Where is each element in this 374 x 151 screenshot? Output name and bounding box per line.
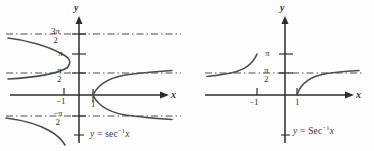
figure-container: y x 3π 2 π π 2 −π 2 −1 1 y = sec−1x [0,0,374,151]
y-tick-label-pi-over-2: π 2 [263,66,270,84]
y-tick-label-pi: π [265,49,270,58]
curve-upper-left-vertex [62,54,70,68]
equation-exponent: −1 [322,124,329,131]
curve-right-upper [93,71,172,96]
equation-lhs: y [90,129,94,139]
y-tick-label-pi-over-2-denominator: 2 [56,75,63,84]
curve-right-lower [93,95,172,120]
equation-operator: = [300,126,306,136]
x-tick-label-neg-1: −1 [56,97,66,106]
y-tick-label-pi: π [58,49,63,58]
chart-panel-sec-inverse-multivalued: y x 3π 2 π π 2 −π 2 −1 1 y = sec−1x [0,0,187,151]
x-axis-label: x [171,90,176,100]
x-axis-arrowhead [160,92,169,99]
chart-panel-sec-inverse-principal: y x π π 2 −1 1 y = Sec−1x [187,0,374,151]
y-axis-arrowhead [282,16,289,24]
y-tick-label-neg-pi-over-2: −π 2 [52,109,64,127]
x-tick-label-neg-1: −1 [249,98,259,107]
y-tick-label-pi-over-2-denominator: 2 [263,75,270,84]
chart-svg-right [187,0,374,151]
equation-function: sec [105,129,118,139]
y-axis-arrowhead [76,16,83,24]
equation-operator: = [97,129,103,139]
x-axis-arrowhead [345,92,354,99]
equation-argument: x [125,129,129,139]
y-tick-label-3pi-over-2-denominator: 2 [50,36,61,45]
equation-argument: x [330,126,334,136]
y-axis-label: y [74,3,78,13]
y-tick-label-pi-over-2: π 2 [56,66,63,84]
x-tick-label-1: 1 [91,100,96,109]
equation-caption-left: y = sec−1x [90,128,130,140]
equation-caption-right: y = Sec−1x [293,125,334,137]
y-tick-label-neg-pi-over-2-denominator: 2 [52,118,64,127]
x-axis-label: x [356,90,361,100]
y-axis-label: y [280,3,284,13]
y-tick-label-3pi-over-2: 3π 2 [50,27,61,45]
equation-function: Sec [308,126,322,136]
equation-lhs: y [293,126,297,136]
curve-right-branch [297,71,359,96]
x-tick-label-1: 1 [295,98,300,107]
